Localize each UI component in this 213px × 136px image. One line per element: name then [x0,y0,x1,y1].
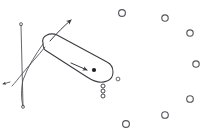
ring-marker [123,121,130,128]
ring-marker [187,96,194,103]
diagram-canvas: Schematic line drawing: elongated capsul… [0,0,213,136]
vertical-ring-stack [101,84,105,98]
vertical-double-headed-arrow [20,23,25,109]
ring-marker [193,61,199,67]
ring-marker [119,10,126,17]
ring-marker-field [119,10,200,128]
ring-marker [162,15,168,21]
ring-marker [162,112,169,119]
ring-marker [187,30,193,36]
small-ring-marker [116,77,120,81]
capsule-body [43,34,113,82]
capsule-interior-dot [92,68,96,72]
interior-direction-arrow [71,63,87,70]
schematic-diagram: Schematic line drawing: elongated capsul… [0,0,213,136]
upper-right-pointing-arrow [50,20,71,41]
forked-curve-pair [12,44,45,106]
left-pointing-arrow [3,82,10,84]
